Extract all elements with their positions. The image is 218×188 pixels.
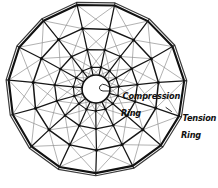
tension-line2: Ring (172, 131, 216, 139)
compression-ring-outline (82, 75, 110, 103)
cable-dome-drawing (0, 0, 218, 188)
tension-line1: Tension (183, 113, 217, 123)
diagram-canvas: Compression Ring Tension Ring (0, 0, 218, 188)
label-tension-ring: Tension Ring (172, 106, 216, 156)
label-compression-ring: Compression Ring (112, 84, 180, 134)
compression-line1: Compression (123, 91, 180, 101)
compression-line2: Ring (112, 109, 180, 117)
